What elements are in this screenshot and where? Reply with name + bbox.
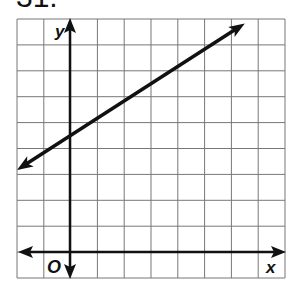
y-axis-label: y <box>54 22 66 41</box>
line-arrow-icon <box>228 23 245 37</box>
coordinate-graph: y x O <box>0 0 299 300</box>
grid <box>17 19 285 278</box>
origin-label: O <box>47 257 61 277</box>
line-arrow-icon <box>17 156 34 170</box>
x-axis-label: x <box>265 258 277 277</box>
